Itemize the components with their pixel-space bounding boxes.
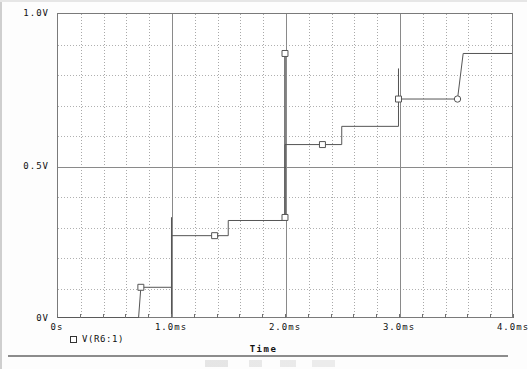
x-axis-title: Time [0,344,527,354]
x-axis-tick-mark [422,314,423,318]
x-axis-tick-mark [148,314,149,318]
plot-area[interactable] [57,13,513,318]
waveform-trace [58,14,512,318]
data-point-marker[interactable] [396,96,402,102]
x-axis-tick-mark [171,314,172,318]
x-axis-tick-mark [490,314,491,318]
page-rule [8,355,508,357]
x-axis-tick-labels: 0s1.0ms2.0ms3.0ms4.0ms [57,322,513,336]
figure-caption-partial [205,360,335,367]
x-axis-tick-label: 0s [51,322,64,332]
x-axis-tick-mark [217,314,218,318]
series-line-0 [58,53,512,317]
x-axis-tick-mark [57,314,58,318]
x-axis-tick-label: 1.0ms [155,322,187,332]
square-marker-icon [70,336,77,343]
data-point-marker[interactable] [212,233,218,239]
legend-item-label[interactable]: V(R6:1) [82,334,124,344]
y-axis-tick-labels: 0V0.5V1.0V [0,13,52,318]
x-axis-tick-label: 2.0ms [269,322,301,332]
x-axis-tick-mark [239,314,240,318]
x-axis-tick-mark [513,314,514,318]
data-point-marker[interactable] [319,142,325,148]
x-axis-tick-label: 4.0ms [497,322,529,332]
data-point-marker[interactable] [282,50,288,56]
x-axis-tick-mark [80,314,81,318]
x-axis-tick-mark [331,314,332,318]
x-axis-tick-mark [376,314,377,318]
x-axis-tick-mark [467,314,468,318]
y-axis-tick-label: 1.0V [23,8,49,18]
y-axis-tick-label: 0V [36,313,49,323]
data-point-marker[interactable] [282,214,288,220]
x-axis-tick-mark [194,314,195,318]
x-axis-tick-mark [308,314,309,318]
data-point-marker[interactable] [138,284,144,290]
x-axis-tick-mark [353,314,354,318]
x-axis-tick-mark [262,314,263,318]
x-axis-tick-mark [285,314,286,318]
y-axis-tick-label: 0.5V [23,161,49,171]
data-point-marker[interactable] [454,96,460,102]
x-axis-tick-mark [103,314,104,318]
x-axis-tick-mark [445,314,446,318]
legend[interactable]: V(R6:1) [70,334,124,344]
x-axis-tick-mark [399,314,400,318]
x-axis-tick-mark [125,314,126,318]
x-axis-tick-label: 3.0ms [383,322,415,332]
scan-edge-top [0,0,527,2]
